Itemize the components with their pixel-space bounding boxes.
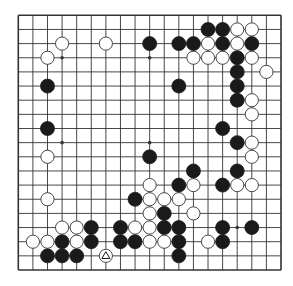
black-stone [113,221,127,235]
white-stone [245,94,258,107]
white-stone [143,193,156,206]
black-stone [186,37,200,51]
white-stone [245,179,258,192]
white-stone [143,221,156,234]
white-stone [187,51,200,64]
black-stone [230,164,244,178]
white-stone [128,221,141,234]
black-stone [128,192,142,206]
black-stone [230,79,244,93]
black-stone [40,122,54,136]
black-stone [216,178,230,192]
black-stone [128,235,142,249]
white-stone [245,23,258,36]
white-stone [26,235,39,248]
white-stone [260,65,273,78]
black-stone [216,37,230,51]
star-point [235,226,239,230]
black-stone [172,79,186,93]
black-stone [84,235,98,249]
white-stone [187,179,200,192]
black-stone [55,235,69,249]
black-stone [186,164,200,178]
white-stone [245,136,258,149]
go-board [0,0,293,286]
black-stone [230,93,244,107]
black-stone [172,221,186,235]
black-stone [216,221,230,235]
white-stone [158,235,171,248]
black-stone [172,235,186,249]
black-stone [216,122,230,136]
white-stone [158,193,171,206]
black-stone [230,65,244,79]
star-point [148,56,152,60]
white-stone [143,235,156,248]
white-stone [245,51,258,64]
white-stone [143,179,156,192]
white-stone [231,23,244,36]
black-stone [157,206,171,220]
black-stone [230,136,244,150]
black-stone [172,178,186,192]
white-stone [201,37,214,50]
black-stone [40,249,54,263]
white-stone [70,235,83,248]
black-stone [245,37,259,51]
black-stone [157,221,171,235]
black-stone [143,37,157,51]
white-stone [41,51,54,64]
white-stone [216,51,229,64]
white-stone [41,150,54,163]
black-stone [55,249,69,263]
black-stone [245,221,259,235]
white-stone [55,221,68,234]
black-stone [113,235,127,249]
black-stone [172,249,186,263]
black-stone [216,22,230,36]
black-stone [40,79,54,93]
white-stone [245,150,258,163]
black-stone [172,37,186,51]
black-stone [230,51,244,65]
white-stone [187,207,200,220]
black-stone [143,150,157,164]
white-stone [172,193,185,206]
white-stone [55,37,68,50]
white-stone [99,37,112,50]
white-stone [70,221,83,234]
white-stone [41,235,54,248]
white-stone [143,207,156,220]
white-stone [201,51,214,64]
white-stone [231,37,244,50]
white-stone [245,108,258,121]
star-point [60,56,64,60]
black-stone [84,221,98,235]
white-stone [231,179,244,192]
black-stone [216,235,230,249]
white-stone [41,193,54,206]
black-stone [201,22,215,36]
white-stone [201,235,214,248]
black-stone [70,249,84,263]
star-point [148,141,152,145]
star-point [60,141,64,145]
